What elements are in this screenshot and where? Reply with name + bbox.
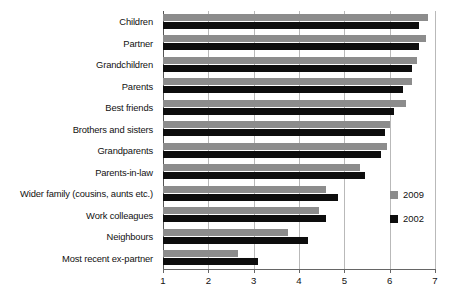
- bar-2002: [163, 215, 326, 222]
- x-tick-label: 3: [244, 275, 264, 286]
- legend-label: 2002: [403, 214, 424, 224]
- category-label: Grandparents: [97, 140, 153, 162]
- bar-2002: [163, 194, 338, 201]
- tick-mark: [208, 269, 209, 273]
- tick-mark: [344, 269, 345, 273]
- bar-2009: [163, 35, 426, 42]
- category-label: Most recent ex-partner: [62, 248, 153, 270]
- bar-group: [163, 33, 435, 55]
- bar-2002: [163, 65, 412, 72]
- legend-swatch-icon: [390, 215, 398, 223]
- bar-2002: [163, 129, 385, 136]
- x-tick-label: 1: [153, 275, 173, 286]
- bar-group: [163, 162, 435, 184]
- bar-2009: [163, 186, 326, 193]
- bar-2009: [163, 250, 238, 257]
- tick-mark: [299, 269, 300, 273]
- bar-2009: [163, 100, 406, 107]
- bar-2002: [163, 172, 365, 179]
- category-label: Neighbours: [107, 226, 153, 248]
- bar-2002: [163, 108, 394, 115]
- bar-group: [163, 76, 435, 98]
- bar-chart: ChildrenPartnerGrandchildrenParentsBest …: [0, 0, 462, 304]
- category-label: Best friends: [105, 97, 153, 119]
- category-label: Parents: [122, 76, 153, 98]
- bar-2002: [163, 22, 419, 29]
- bar-2002: [163, 86, 403, 93]
- x-tick-label: 5: [334, 275, 354, 286]
- bar-group: [163, 119, 435, 141]
- bar-2002: [163, 237, 308, 244]
- category-label: Children: [119, 11, 153, 33]
- category-label: Parents-in-law: [95, 162, 153, 184]
- bar-2009: [163, 121, 390, 128]
- bar-group: [163, 11, 435, 33]
- category-label: Partner: [123, 33, 153, 55]
- legend-swatch-icon: [390, 191, 398, 199]
- tick-mark: [254, 269, 255, 273]
- bar-group: [163, 140, 435, 162]
- x-tick-label: 6: [380, 275, 400, 286]
- bar-2009: [163, 229, 288, 236]
- category-label-column: ChildrenPartnerGrandchildrenParentsBest …: [0, 11, 158, 269]
- bar-2009: [163, 207, 319, 214]
- bar-2002: [163, 43, 419, 50]
- category-label: Work colleagues: [86, 205, 153, 227]
- chart-legend: 20092002: [390, 190, 454, 238]
- tick-mark: [390, 269, 391, 273]
- category-label: Brothers and sisters: [73, 119, 153, 141]
- bar-2009: [163, 78, 412, 85]
- legend-item[interactable]: 2009: [390, 190, 454, 200]
- bar-2009: [163, 57, 417, 64]
- x-tick-label: 4: [289, 275, 309, 286]
- bar-2002: [163, 151, 381, 158]
- x-axis-ticks: 1234567: [163, 269, 436, 293]
- x-tick-label: 2: [198, 275, 218, 286]
- tick-mark: [163, 269, 164, 273]
- bar-group: [163, 54, 435, 76]
- bar-group: [163, 248, 435, 270]
- legend-item[interactable]: 2002: [390, 214, 454, 224]
- category-label: Grandchildren: [96, 54, 153, 76]
- bar-2009: [163, 164, 360, 171]
- bar-2009: [163, 143, 387, 150]
- bar-2009: [163, 14, 428, 21]
- bar-2002: [163, 258, 258, 265]
- bar-group: [163, 97, 435, 119]
- category-label: Wider family (cousins, aunts etc.): [20, 183, 153, 205]
- legend-label: 2009: [403, 190, 424, 200]
- x-tick-label: 7: [425, 275, 445, 286]
- tick-mark: [435, 269, 436, 273]
